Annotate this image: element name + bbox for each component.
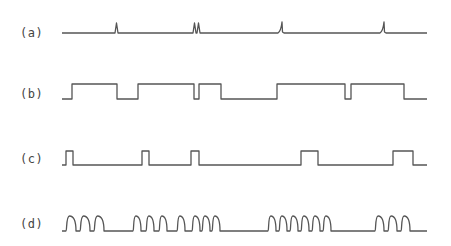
waveform-c [62, 151, 427, 165]
waveform-b [62, 84, 427, 99]
waveform-d [62, 216, 427, 231]
waveform-canvas [0, 0, 451, 246]
waveform-a [62, 22, 427, 33]
